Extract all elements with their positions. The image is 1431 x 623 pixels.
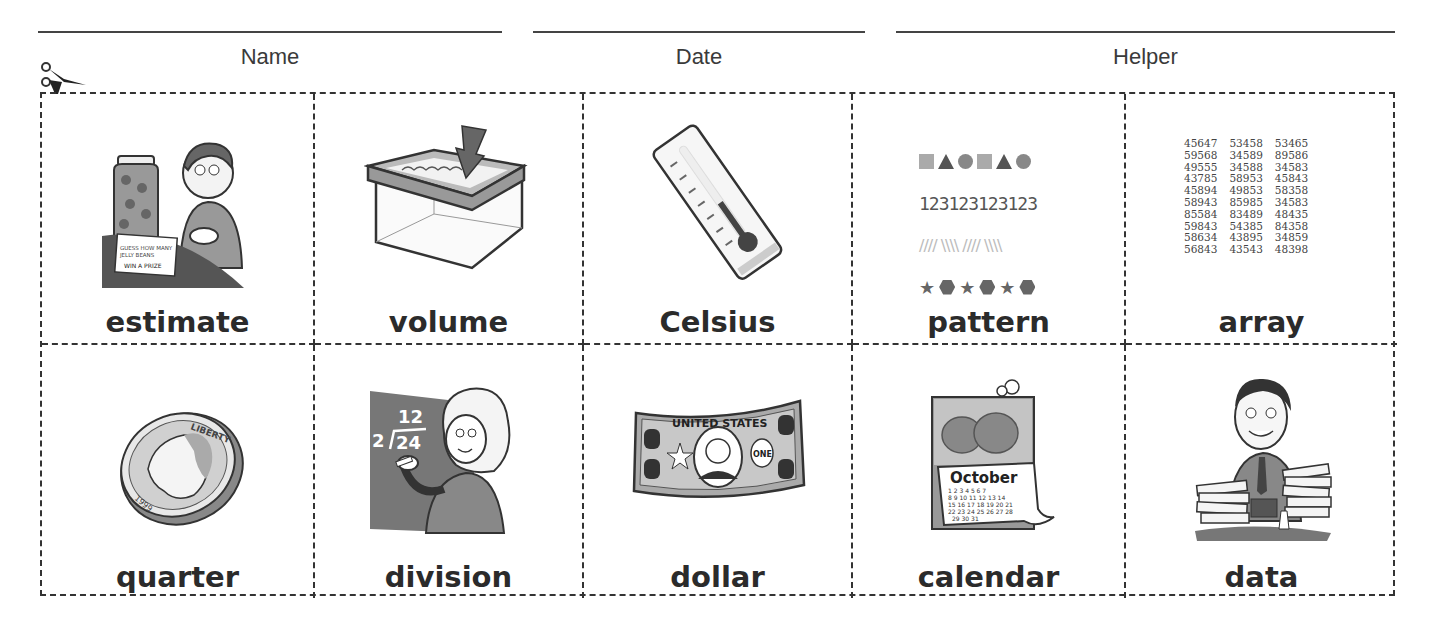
svg-text:JELLY BEANS: JELLY BEANS xyxy=(119,252,155,259)
thermometer-image xyxy=(638,118,798,288)
card-array: 456475345853465 595683458989586 49555345… xyxy=(1126,94,1397,345)
helper-write-line xyxy=(896,31,1395,33)
star-hexagon-pattern-row: ★ ★ ★ xyxy=(919,274,1069,300)
card-volume: volume xyxy=(315,94,584,345)
date-write-line xyxy=(533,31,865,33)
triangle-icon xyxy=(996,154,1012,169)
svg-text:15 16 17 18 19 20 21: 15 16 17 18 19 20 21 xyxy=(948,501,1013,508)
helper-label: Helper xyxy=(896,44,1395,70)
svg-text:WIN A PRIZE: WIN A PRIZE xyxy=(124,262,162,269)
card-calendar: October 1 2 3 4 5 6 7 8 9 10 11 12 13 14… xyxy=(853,345,1126,598)
number-array-image: 456475345853465 595683458989586 49555345… xyxy=(1184,138,1308,256)
word-label: calendar xyxy=(853,560,1124,594)
square-icon xyxy=(977,154,992,169)
card-celsius: Celsius xyxy=(584,94,853,345)
vocabulary-card-grid: GUESS HOW MANY JELLY BEANS WIN A PRIZE e… xyxy=(40,92,1395,596)
teacher-chalkboard-image: 12 2 24 xyxy=(364,369,534,539)
card-data: data xyxy=(1126,345,1397,598)
word-label: array xyxy=(1126,305,1397,339)
card-estimate: GUESS HOW MANY JELLY BEANS WIN A PRIZE e… xyxy=(42,94,315,345)
dollar-bill-image: UNITED STATES ONE xyxy=(628,395,808,505)
name-label: Name xyxy=(38,44,502,70)
hexagon-icon xyxy=(939,280,955,295)
shape-pattern-row xyxy=(919,148,1069,174)
svg-text:22 23 24 25 26 27 28: 22 23 24 25 26 27 28 xyxy=(948,508,1013,515)
svg-text:ONE: ONE xyxy=(753,450,772,459)
word-label: volume xyxy=(315,305,582,339)
svg-text:GUESS HOW MANY: GUESS HOW MANY xyxy=(120,245,173,251)
svg-text:24: 24 xyxy=(396,432,421,453)
word-label: estimate xyxy=(42,305,313,339)
october-calendar-image: October 1 2 3 4 5 6 7 8 9 10 11 12 13 14… xyxy=(914,369,1064,539)
circle-icon xyxy=(1016,154,1031,169)
quarter-coin-image: LIBERTY 1999 xyxy=(98,385,258,555)
card-division: 12 2 24 division xyxy=(315,345,584,598)
card-dollar: UNITED STATES ONE dollar xyxy=(584,345,853,598)
number-pattern-row: 123123123123 xyxy=(919,190,1069,216)
word-label: pattern xyxy=(853,305,1124,339)
svg-text:29 30 31: 29 30 31 xyxy=(952,515,979,522)
line-pattern-row: //// \\\\ //// \\\\ xyxy=(919,232,1069,258)
card-pattern: 123123123123 //// \\\\ //// \\\\ ★ ★ ★ p… xyxy=(853,94,1126,345)
svg-text:2: 2 xyxy=(372,430,385,451)
word-label: Celsius xyxy=(584,305,851,339)
svg-text:8 9 10 11 12 13 14: 8 9 10 11 12 13 14 xyxy=(948,494,1005,501)
svg-text:October: October xyxy=(950,469,1018,487)
hexagon-icon xyxy=(979,280,995,295)
star-icon: ★ xyxy=(959,277,975,298)
card-quarter: LIBERTY 1999 quarter xyxy=(42,345,315,598)
svg-text:12: 12 xyxy=(398,406,423,427)
pattern-image: 123123123123 //// \\\\ //// \\\\ ★ ★ ★ xyxy=(919,148,1069,316)
star-icon: ★ xyxy=(919,277,935,298)
box-being-filled-image xyxy=(364,118,534,288)
date-label: Date xyxy=(533,44,865,70)
scissors-icon xyxy=(38,60,88,96)
word-label: division xyxy=(315,560,582,594)
word-label: data xyxy=(1126,560,1397,594)
circle-icon xyxy=(958,154,973,169)
star-icon: ★ xyxy=(999,277,1015,298)
hexagon-icon xyxy=(1019,280,1035,295)
name-write-line xyxy=(38,31,502,33)
square-icon xyxy=(919,154,934,169)
word-label: dollar xyxy=(584,560,851,594)
svg-text:1 2 3 4 5 6 7: 1 2 3 4 5 6 7 xyxy=(948,487,986,494)
triangle-icon xyxy=(938,154,954,169)
boy-jelly-bean-jar-image: GUESS HOW MANY JELLY BEANS WIN A PRIZE xyxy=(98,118,258,288)
man-with-papers-image xyxy=(1187,371,1337,541)
word-label: quarter xyxy=(42,560,313,594)
